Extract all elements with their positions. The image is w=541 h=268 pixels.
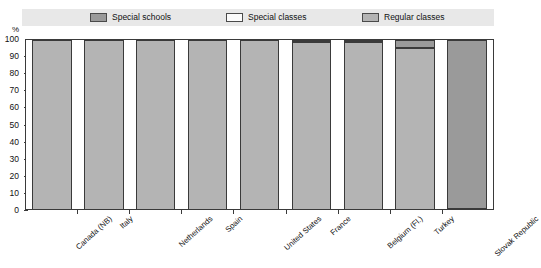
bar-netherlands[interactable] (136, 40, 175, 209)
x-axis-label-slovak-republic: Slovak Republic (494, 215, 541, 258)
x-axis-label-belgium-fl: Belgium (Fl.) (387, 215, 425, 250)
bar-slot (234, 40, 286, 209)
bar-united-states[interactable] (240, 40, 279, 209)
y-tick-label-100: 100 (5, 35, 19, 44)
y-tick-label-40: 40 (10, 137, 19, 146)
bar-segment-regular-classes (33, 40, 70, 209)
x-axis-labels: Canada (NB)ItalyNetherlandsSpainUnited S… (25, 212, 494, 268)
legend-item-regular-classes: Regular classes (362, 9, 444, 26)
y-tick-label-90: 90 (10, 52, 19, 61)
y-tick-label-50: 50 (10, 120, 19, 129)
x-axis-label-netherlands: Netherlands (178, 215, 214, 249)
x-axis-label-france: France (329, 215, 352, 237)
bar-segment-special-schools (448, 40, 485, 209)
legend-item-special-schools: Special schools (90, 9, 171, 26)
legend-label-special-classes: Special classes (248, 13, 307, 22)
bar-slot (441, 40, 493, 209)
bar-segment-regular-classes (241, 40, 278, 209)
y-tick-label-20: 20 (10, 172, 19, 181)
legend-item-special-classes: Special classes (226, 9, 307, 26)
x-axis-label-turkey: Turkey (433, 215, 456, 237)
bar-spain[interactable] (188, 40, 227, 209)
plot-area (25, 39, 494, 210)
bar-segment-regular-classes (345, 42, 382, 209)
bars-row (26, 40, 493, 209)
legend-label-special-schools: Special schools (112, 13, 171, 22)
y-tick-label-10: 10 (10, 189, 19, 198)
legend-swatch-special-classes (226, 13, 243, 22)
bar-slovak-republic[interactable] (447, 40, 486, 209)
bar-segment-regular-classes (293, 42, 330, 209)
x-axis-label-canada-nb: Canada (NB) (74, 215, 113, 251)
y-tick-label-0: 0 (14, 206, 19, 215)
bar-canada-nb[interactable] (32, 40, 71, 209)
bar-italy[interactable] (84, 40, 123, 209)
bar-france[interactable] (292, 40, 331, 209)
bar-segment-special-schools (396, 40, 433, 48)
bar-segment-regular-classes (189, 40, 226, 209)
bar-slot (337, 40, 389, 209)
bar-segment-regular-classes (85, 40, 122, 209)
bar-slot (389, 40, 441, 209)
x-axis-label-italy: Italy (118, 215, 134, 230)
legend-label-regular-classes: Regular classes (384, 13, 444, 22)
x-axis-label-united-states: United States (283, 215, 323, 252)
legend-swatch-special-schools (90, 13, 107, 22)
bar-belgium-fl[interactable] (344, 40, 383, 209)
bar-slot (285, 40, 337, 209)
bar-slot (78, 40, 130, 209)
legend-swatch-regular-classes (362, 13, 379, 22)
bar-segment-regular-classes (137, 40, 174, 209)
y-axis: 1009080706050403020100 (0, 36, 22, 210)
bar-slot (130, 40, 182, 209)
y-tick-label-30: 30 (10, 154, 19, 163)
x-axis-label-spain: Spain (224, 215, 244, 234)
chart-legend: Special schools Special classes Regular … (22, 9, 494, 26)
y-axis-unit-label: % (12, 25, 19, 34)
y-tick-label-70: 70 (10, 86, 19, 95)
y-tick-label-80: 80 (10, 69, 19, 78)
bar-slot (26, 40, 78, 209)
bar-slot (182, 40, 234, 209)
y-tick-label-60: 60 (10, 103, 19, 112)
bar-segment-regular-classes (396, 48, 433, 209)
bar-turkey[interactable] (395, 40, 434, 209)
